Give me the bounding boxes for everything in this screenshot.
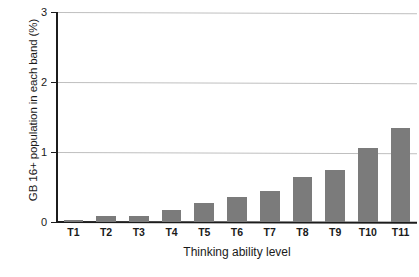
y-axis-title: GB 16+ population in each band (%) — [20, 0, 46, 226]
bar-t6 — [227, 197, 247, 222]
bar-series — [57, 12, 417, 222]
x-tick-label-t11: T11 — [384, 226, 417, 238]
bar-t10 — [358, 148, 378, 222]
bar-t1 — [64, 220, 84, 222]
bar-t11 — [391, 128, 411, 223]
x-tick-label-t3: T3 — [122, 226, 155, 238]
x-tick-label-t10: T10 — [352, 226, 385, 238]
x-tick-label-t4: T4 — [155, 226, 188, 238]
x-tick-label-t6: T6 — [221, 226, 254, 238]
bar-t7 — [260, 191, 280, 223]
x-tick-label-t2: T2 — [90, 226, 123, 238]
x-tick-label-t1: T1 — [57, 226, 90, 238]
x-tick-label-t5: T5 — [188, 226, 221, 238]
y-tick-label-2: 2 — [33, 76, 47, 88]
y-tick-label-3: 3 — [33, 6, 47, 18]
y-tick-label-1: 1 — [33, 146, 47, 158]
bar-t8 — [293, 177, 313, 223]
bar-t9 — [325, 170, 345, 222]
x-axis-tick-labels: T1T2T3T4T5T6T7T8T9T10T11 — [57, 226, 417, 242]
x-tick-label-t8: T8 — [286, 226, 319, 238]
x-tick-label-t7: T7 — [253, 226, 286, 238]
bar-chart-figure: GB 16+ population in each band (%) 0123 … — [0, 0, 419, 277]
x-axis-title: Thinking ability level — [57, 245, 417, 259]
y-tick-label-0: 0 — [33, 216, 47, 228]
bar-t5 — [194, 203, 214, 222]
bar-t3 — [129, 216, 149, 222]
bar-t2 — [96, 216, 116, 222]
bar-t4 — [162, 210, 182, 222]
x-tick-label-t9: T9 — [319, 226, 352, 238]
